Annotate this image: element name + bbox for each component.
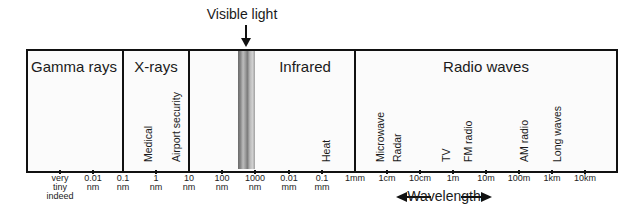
- wavelength-arrow-line-right: [461, 196, 483, 198]
- divider-infrared-radio: [354, 49, 356, 171]
- region-x-rays: X-rays: [134, 58, 177, 75]
- use-fm-radio: FM radio: [462, 121, 474, 162]
- use-airport-security: Airport security: [170, 92, 182, 162]
- use-medical: Medical: [142, 126, 154, 162]
- tick-label-line: mm: [302, 183, 342, 192]
- use-long-waves: Long waves: [551, 106, 563, 162]
- region-gamma-rays: Gamma rays: [31, 58, 117, 75]
- divider-gamma-xray: [122, 49, 124, 171]
- arrow-down-icon: [241, 38, 251, 47]
- use-radar: Radar: [391, 133, 403, 162]
- visible-light-label: Visible light: [207, 6, 278, 22]
- use-am-radio: AM radio: [518, 120, 530, 162]
- tick-label-10km: 10km: [565, 174, 605, 183]
- tick-label-line: indeed: [40, 192, 80, 201]
- use-heat: Heat: [320, 140, 332, 162]
- visible-light-arrow-shaft: [245, 25, 247, 39]
- visible-light-band: [238, 51, 255, 169]
- arrow-right-icon: [481, 192, 492, 202]
- use-tv: TV: [440, 149, 452, 162]
- use-microwave: Microwave: [374, 112, 386, 162]
- region-infrared: Infrared: [279, 58, 331, 75]
- region-radio-waves: Radio waves: [443, 58, 529, 75]
- divider-xray-infrared: [188, 49, 190, 171]
